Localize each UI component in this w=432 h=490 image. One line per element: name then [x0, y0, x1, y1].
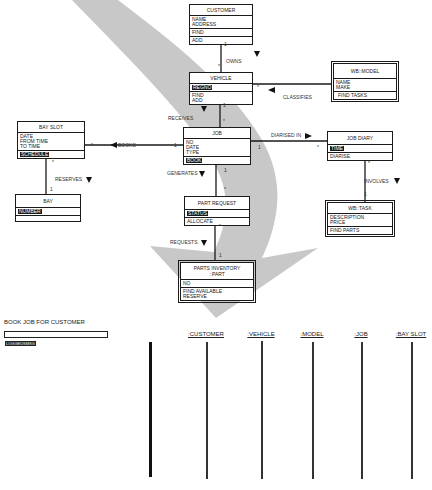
- association-label-involves: INVOLVES: [364, 178, 389, 184]
- direction-arrow-icon: [268, 87, 275, 93]
- class-bay-operations: [16, 216, 80, 221]
- class-model[interactable]: WB::MODEL NAME MAKE FIND TASKS: [333, 63, 397, 100]
- attribute: REGNO: [192, 85, 212, 90]
- class-part-request-operations: ALLOCATE: [185, 218, 249, 225]
- class-bay-slot-name: BAY SLOT: [18, 122, 84, 133]
- attribute: TIME: [330, 146, 344, 151]
- operation: SCHEDULE: [20, 152, 49, 157]
- class-job-name: JOB: [184, 128, 250, 139]
- actor-job[interactable]: :JOB: [354, 331, 367, 337]
- class-bay-name: BAY: [16, 195, 80, 208]
- multiplicity: *: [223, 119, 225, 124]
- multiplicity: 1: [50, 187, 53, 192]
- multiplicity: 1: [258, 145, 261, 150]
- class-parts-inventory[interactable]: PARTS INVENTORY ::PART NO FIND AVAILABLE…: [180, 262, 254, 301]
- multiplicity: 1: [223, 103, 226, 108]
- class-bay-slot-attributes: DATE FROM TIME TO TIME: [18, 133, 84, 151]
- actor-bay-slot[interactable]: :BAY SLOT: [396, 331, 426, 337]
- class-vehicle[interactable]: VEHICLE REGNO FIND ADD: [189, 72, 253, 105]
- association-label-generates: GENERATES: [167, 170, 197, 176]
- multiplicity: 1: [174, 143, 177, 148]
- lifeline-vehicle[interactable]: [261, 341, 263, 479]
- attribute: STATUS: [187, 211, 208, 216]
- class-task-operations: FIND PARTS: [328, 227, 392, 234]
- class-job-diary-attributes: TIME: [328, 145, 392, 153]
- association-label-diarised-in: DIARISED IN: [271, 132, 301, 138]
- direction-arrow-icon: [199, 171, 205, 177]
- class-job-operations: BOOK: [184, 157, 250, 164]
- lifeline-job[interactable]: [361, 342, 363, 479]
- class-job[interactable]: JOB NO DATE TYPE BOOK: [183, 127, 251, 165]
- class-model-operations: FIND TASKS: [334, 92, 396, 99]
- attribute: TO TIME: [20, 144, 82, 149]
- multiplicity: 1: [224, 168, 227, 173]
- class-task-attributes: DESCRIPTION PRICE: [328, 214, 392, 227]
- class-vehicle-operations: FIND ADD: [190, 92, 252, 104]
- lifeline-customer[interactable]: [206, 342, 208, 479]
- class-customer[interactable]: CUSTOMER NAME ADDRESS FIND ADD: [189, 4, 253, 45]
- multiplicity: *: [52, 160, 54, 165]
- class-customer-operations: FIND ADD: [190, 29, 252, 44]
- operation: ADD: [192, 37, 250, 44]
- class-job-diary-name: JOB DIARY: [328, 132, 392, 145]
- attribute: ADDRESS: [192, 22, 250, 27]
- operation: ALLOCATE: [187, 219, 247, 224]
- multiplicity: *: [317, 145, 319, 150]
- multiplicity: 1: [224, 42, 227, 47]
- attribute: MAKE: [336, 85, 394, 90]
- association-label-receives: RECEIVES: [168, 115, 193, 121]
- direction-arrow-icon: [394, 178, 400, 184]
- lifeline-bay-slot[interactable]: [411, 342, 413, 479]
- multiplicity: *: [218, 64, 220, 69]
- multiplicity: 1: [364, 192, 367, 197]
- association-label-books: BOOKS: [118, 142, 136, 148]
- multiplicity: 1: [219, 253, 222, 258]
- class-bay-attributes: NUMBER: [16, 208, 80, 216]
- direction-arrow-icon: [254, 51, 260, 57]
- direction-arrow-icon: [110, 142, 117, 148]
- attribute: PRICE: [330, 220, 390, 225]
- class-job-diary-operations: DIARISE: [328, 153, 392, 160]
- multiplicity: *: [257, 85, 259, 90]
- operation: DIARISE: [330, 154, 390, 159]
- association-label-requests: REQUESTS: [170, 239, 198, 245]
- operation: ADD: [192, 98, 250, 103]
- message-input-value: LOGGEDSMSG: [5, 341, 36, 346]
- class-model-name: WB::MODEL: [334, 64, 396, 79]
- class-customer-name: CUSTOMER: [190, 5, 252, 16]
- multiplicity: *: [91, 143, 93, 148]
- class-task[interactable]: WB::TASK DESCRIPTION PRICE FIND PARTS: [327, 202, 393, 235]
- class-job-attributes: NO DATE TYPE: [184, 139, 250, 157]
- class-part-request-attributes: STATUS: [185, 210, 249, 218]
- class-part-request[interactable]: PART REQUEST STATUS ALLOCATE: [184, 196, 250, 226]
- class-part-request-name: PART REQUEST: [185, 197, 249, 210]
- actor-vehicle[interactable]: :VEHICLE: [247, 331, 274, 337]
- actor-customer[interactable]: :CUSTOMER: [188, 331, 224, 337]
- class-task-name: WB::TASK: [328, 203, 392, 214]
- initiator-lifeline[interactable]: [149, 342, 152, 477]
- class-bay[interactable]: BAY NUMBER: [15, 194, 81, 222]
- attribute: TYPE: [186, 150, 248, 155]
- operation: FIND TASKS: [336, 93, 394, 98]
- class-job-diary[interactable]: JOB DIARY TIME DIARISE: [327, 131, 393, 161]
- association-label-owns: OWNS: [226, 58, 242, 64]
- class-model-attributes: NAME MAKE: [334, 79, 396, 92]
- class-vehicle-attributes: REGNO: [190, 84, 252, 92]
- class-vehicle-name: VEHICLE: [190, 73, 252, 84]
- operation: BOOK: [186, 158, 202, 163]
- lifeline-model[interactable]: [312, 342, 314, 479]
- multiplicity: *: [368, 161, 370, 166]
- direction-arrow-icon: [86, 177, 92, 183]
- operation: RESERVE: [183, 294, 251, 299]
- direction-arrow-icon: [305, 133, 312, 139]
- class-bay-slot[interactable]: BAY SLOT DATE FROM TIME TO TIME SCHEDULE: [17, 121, 85, 159]
- actor-model[interactable]: :MODEL: [300, 331, 323, 337]
- class-customer-attributes: NAME ADDRESS: [190, 16, 252, 29]
- direction-arrow-icon: [201, 240, 207, 246]
- attribute: NO: [183, 281, 251, 286]
- attribute: NUMBER: [18, 209, 42, 214]
- message-input[interactable]: LOGGEDSMSG: [4, 331, 108, 338]
- association-label-reserves: RESERVES: [55, 176, 82, 182]
- sequence-title: BOOK JOB FOR CUSTOMER: [4, 319, 85, 325]
- multiplicity: *: [219, 224, 221, 229]
